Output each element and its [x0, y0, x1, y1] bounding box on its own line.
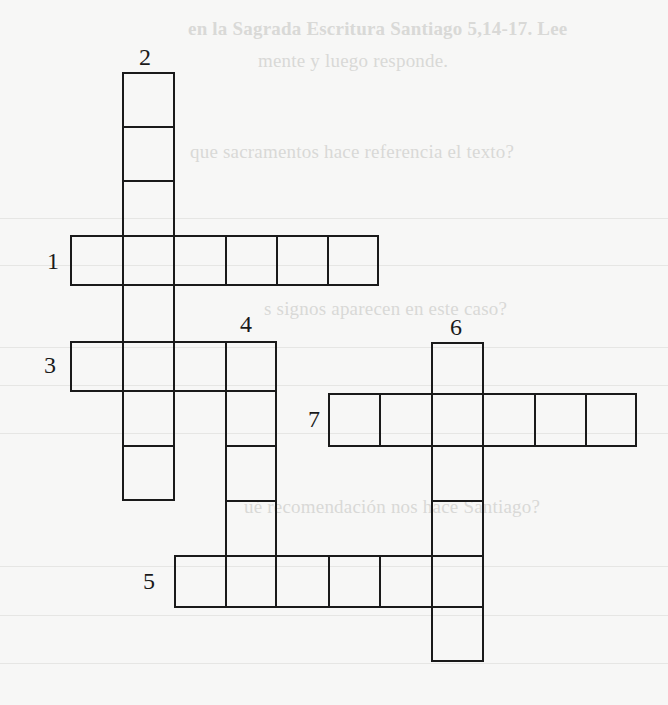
clue-number-6: 6 — [450, 315, 462, 339]
cell-word-3-2[interactable] — [122, 341, 175, 392]
cell-word-2[interactable] — [122, 284, 175, 343]
cell-word-1[interactable] — [173, 235, 227, 286]
cell-word-6[interactable] — [431, 445, 484, 502]
cell-word-5[interactable] — [174, 555, 227, 608]
cell-word-3[interactable] — [173, 341, 227, 392]
ruled-line — [0, 218, 668, 219]
cell-word-1[interactable] — [276, 235, 329, 286]
cell-word-7[interactable] — [379, 393, 433, 447]
ruled-line — [0, 615, 668, 616]
cell-word-1[interactable] — [327, 235, 379, 286]
bleed-text-line-2: mente y luego responde. — [258, 50, 448, 72]
cell-word-4[interactable] — [225, 500, 277, 557]
clue-number-7: 7 — [308, 407, 320, 431]
cell-word-2[interactable] — [122, 126, 175, 182]
ruled-line — [0, 663, 668, 664]
bleed-text-line-3: que sacramentos hace referencia el texto… — [190, 141, 514, 163]
cell-word-4[interactable] — [225, 390, 277, 447]
cell-word-7-6[interactable] — [431, 393, 484, 447]
cell-word-3[interactable] — [70, 341, 124, 392]
cell-word-7[interactable] — [534, 393, 587, 447]
cell-word-5[interactable] — [379, 555, 433, 608]
bleed-text-line-1: en la Sagrada Escritura Santiago 5,14-17… — [188, 18, 568, 40]
cell-word-6[interactable] — [431, 606, 484, 662]
cell-word-4[interactable] — [225, 445, 277, 502]
cell-word-2[interactable] — [122, 390, 175, 447]
cell-word-3-4[interactable] — [225, 341, 277, 392]
cell-word-2[interactable] — [122, 445, 175, 501]
cell-word-2[interactable] — [122, 180, 175, 237]
cell-word-5[interactable] — [328, 555, 381, 608]
clue-number-4: 4 — [240, 312, 252, 336]
clue-number-1: 1 — [47, 249, 59, 273]
cell-word-2[interactable] — [122, 72, 175, 128]
cell-word-7[interactable] — [585, 393, 637, 447]
cell-word-6[interactable] — [431, 500, 484, 557]
cell-word-7[interactable] — [482, 393, 536, 447]
bleed-text-line-5: ué recomendación nos hace Santiago? — [244, 496, 540, 518]
cell-word-5-4[interactable] — [225, 555, 277, 608]
cell-word-5-6[interactable] — [431, 555, 484, 608]
clue-number-3: 3 — [44, 353, 56, 377]
bleed-text-line-4: s signos aparecen en este caso? — [264, 298, 507, 320]
cell-word-6[interactable] — [431, 342, 484, 395]
cell-word-5[interactable] — [275, 555, 330, 608]
cell-word-1-2[interactable] — [122, 235, 175, 286]
cell-word-7[interactable] — [328, 393, 381, 447]
clue-number-2: 2 — [139, 45, 151, 69]
cell-word-1[interactable] — [70, 235, 124, 286]
clue-number-5: 5 — [143, 569, 155, 593]
cell-word-1[interactable] — [225, 235, 278, 286]
